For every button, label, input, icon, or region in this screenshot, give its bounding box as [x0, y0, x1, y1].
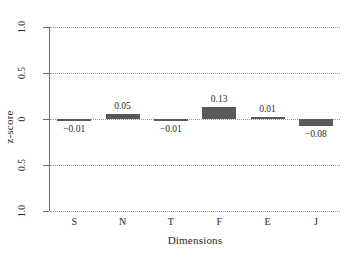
bar-value-label-t: −0.01: [148, 124, 194, 135]
bar-value-label-s: −0.01: [51, 124, 97, 135]
bar-e: [251, 117, 285, 119]
x-axis-tick-label-j: J: [293, 216, 339, 228]
bar-j: [299, 119, 333, 126]
plot-area: [50, 27, 340, 211]
gridline: [50, 27, 340, 28]
x-axis-tick-label-f: F: [196, 216, 242, 228]
y-axis-tick: [43, 73, 49, 74]
bar-s: [57, 119, 91, 121]
x-axis-title: Dimensions: [50, 234, 340, 247]
x-axis-tick-label-t: T: [148, 216, 194, 228]
gridline: [50, 73, 340, 74]
bar-n: [106, 114, 140, 119]
y-axis-tick: [43, 165, 49, 166]
x-axis-tick-label-e: E: [245, 216, 291, 228]
y-axis-tick-label: 0.5: [16, 56, 28, 90]
bar-value-label-j: −0.08: [293, 129, 339, 140]
bar-t: [154, 119, 188, 121]
y-axis-tick: [43, 211, 49, 212]
gridline: [50, 119, 340, 120]
bar-value-label-e: 0.01: [245, 104, 291, 115]
x-axis-tick-label-n: N: [100, 216, 146, 228]
gridline: [50, 211, 340, 212]
bar-value-label-f: 0.13: [196, 94, 242, 105]
x-axis-tick-label-s: S: [51, 216, 97, 228]
y-axis-tick-label: 1.0: [16, 10, 28, 44]
bar-value-label-n: 0.05: [100, 101, 146, 112]
bar-chart: z-score Dimensions 1.00.500.51.0−0.01S0.…: [0, 0, 351, 254]
gridline: [50, 165, 340, 166]
bar-f: [202, 107, 236, 119]
y-axis-tick: [43, 119, 49, 120]
y-axis-tick: [43, 27, 49, 28]
y-axis-tick-label: 1.0: [16, 194, 28, 228]
y-axis-tick-label: 0.5: [16, 148, 28, 182]
y-axis-tick-label: 0: [16, 102, 28, 136]
